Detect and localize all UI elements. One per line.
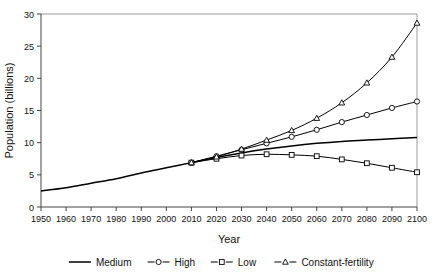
y-tick-label: 15	[24, 106, 34, 116]
data-point-circle	[314, 127, 319, 132]
data-point-square	[415, 170, 420, 175]
data-point-triangle	[414, 20, 420, 25]
x-axis-title: Year	[218, 233, 241, 245]
data-point-square	[364, 161, 369, 166]
data-point-circle	[364, 112, 369, 117]
x-tick-label: 2040	[257, 214, 277, 224]
x-tick-label: 2100	[407, 214, 427, 224]
x-tick-label: 2010	[181, 214, 201, 224]
data-point-circle	[414, 99, 419, 104]
series-line	[191, 101, 417, 162]
x-tick-label: 2070	[332, 214, 352, 224]
population-projection-chart: 0510152025301950196019701980199020002010…	[0, 0, 442, 278]
data-point-square	[219, 260, 224, 265]
legend-label: High	[175, 257, 196, 268]
legend-label: Low	[238, 257, 257, 268]
legend-label: Constant-fertility	[301, 257, 373, 268]
series-constant-fertility	[189, 20, 420, 165]
legend-item-medium[interactable]: Medium	[69, 257, 132, 268]
x-tick-label: 1960	[56, 214, 76, 224]
x-tick-label: 1950	[31, 214, 51, 224]
data-point-square	[264, 152, 269, 157]
x-tick-label: 1970	[81, 214, 101, 224]
series-line	[191, 23, 417, 163]
y-tick-label: 10	[24, 138, 34, 148]
data-point-triangle	[283, 259, 289, 264]
data-point-circle	[156, 259, 161, 264]
data-point-square	[314, 154, 319, 159]
x-tick-label: 1980	[106, 214, 126, 224]
legend-label: Medium	[96, 257, 132, 268]
legend-item-low[interactable]: Low	[211, 257, 257, 268]
data-point-triangle	[314, 115, 320, 120]
y-axis-title: Population (billions)	[3, 63, 15, 159]
x-tick-label: 2080	[357, 214, 377, 224]
data-point-square	[239, 153, 244, 158]
x-tick-label: 2000	[156, 214, 176, 224]
y-tick-label: 30	[24, 10, 34, 20]
data-point-square	[390, 165, 395, 170]
y-tick-label: 25	[24, 42, 34, 52]
x-tick-label: 2050	[282, 214, 302, 224]
data-point-circle	[389, 105, 394, 110]
x-tick-label: 2030	[232, 214, 252, 224]
series-medium	[41, 138, 417, 191]
data-point-circle	[289, 134, 294, 139]
data-point-circle	[339, 119, 344, 124]
series-line	[191, 154, 417, 172]
y-tick-label: 20	[24, 74, 34, 84]
x-tick-label: 1990	[131, 214, 151, 224]
series-line	[41, 138, 417, 191]
y-tick-label: 5	[29, 170, 34, 180]
chart-canvas: 0510152025301950196019701980199020002010…	[0, 0, 442, 278]
x-tick-label: 2060	[307, 214, 327, 224]
legend-item-high[interactable]: High	[148, 257, 196, 268]
data-point-square	[339, 157, 344, 162]
x-tick-label: 2090	[382, 214, 402, 224]
data-point-triangle	[339, 100, 345, 105]
data-point-square	[289, 152, 294, 157]
x-tick-label: 2020	[206, 214, 226, 224]
legend-item-constant-fertility[interactable]: Constant-fertility	[274, 257, 373, 268]
y-tick-label: 0	[29, 203, 34, 213]
